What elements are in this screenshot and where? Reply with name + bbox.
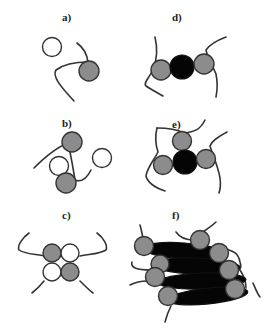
gray-unit-top (173, 132, 192, 151)
chain (130, 281, 147, 285)
chain-top-left (19, 233, 45, 256)
panel-label-d: d) (172, 11, 182, 24)
panel-label-c: c) (62, 209, 71, 222)
panel-label-f: f) (172, 209, 180, 222)
panel-f: f) (130, 209, 260, 322)
panel-e: e) (146, 118, 227, 193)
gray-unit-bottom-right (61, 263, 79, 281)
gray-unit (226, 280, 245, 299)
gray-unit-bottom (56, 173, 76, 193)
panel-b: b) (34, 117, 112, 193)
gray-unit-right (194, 54, 214, 74)
panel-c: c) (19, 209, 107, 293)
gray-unit (159, 287, 178, 306)
gray-unit (146, 268, 165, 287)
chain (132, 262, 150, 270)
panel-a: a) (43, 11, 100, 101)
gray-unit-top (62, 132, 82, 152)
black-core (173, 150, 197, 174)
gray-unit-right (197, 150, 216, 169)
chain (253, 283, 260, 297)
gray-unit-left (151, 60, 171, 80)
gray-unit (191, 231, 210, 250)
black-core (170, 55, 194, 79)
white-unit-right (93, 149, 112, 168)
panel-d: d) (145, 11, 226, 97)
white-unit-top-right (61, 244, 79, 262)
diagram-canvas: a) d) b) e) c) (0, 0, 268, 335)
panel-label-b: b) (62, 117, 72, 130)
chain-bottom-left (32, 281, 44, 293)
gray-unit-top-left (43, 244, 61, 262)
panel-label-a: a) (62, 11, 72, 24)
gray-unit-left (154, 156, 173, 175)
gray-unit (135, 237, 154, 256)
white-unit (43, 38, 62, 57)
gray-unit (79, 61, 99, 81)
chain (165, 306, 171, 322)
white-unit-bottom-left (43, 263, 61, 281)
chain-bottom-right (80, 281, 93, 293)
gray-unit (220, 261, 239, 280)
chain-top-right (80, 233, 107, 256)
gray-unit (210, 244, 229, 263)
